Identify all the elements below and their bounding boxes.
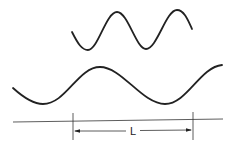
- right-arrowhead-icon: [186, 128, 192, 131]
- dimension-line-right: [140, 130, 191, 131]
- left-arrowhead-icon: [74, 129, 80, 132]
- long-wavelength-wave: [13, 65, 222, 104]
- baseline: [13, 119, 223, 122]
- short-wavelength-wave: [72, 10, 192, 50]
- length-label: L: [130, 125, 136, 137]
- wave-diagram: L: [0, 0, 238, 151]
